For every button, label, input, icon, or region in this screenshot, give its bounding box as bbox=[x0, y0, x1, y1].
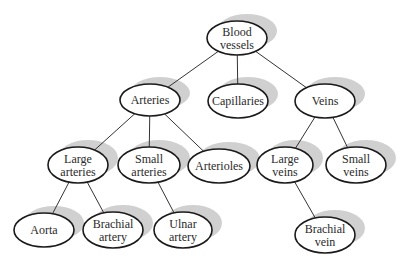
node-arterioles: Arterioles bbox=[188, 149, 250, 183]
node-brachial-artery: Brachialartery bbox=[83, 212, 143, 248]
tree-edges bbox=[53, 51, 348, 218]
brachial-vein-label-line-1: Brachial bbox=[305, 222, 346, 236]
node-blood-vessels: Bloodvessels bbox=[207, 21, 267, 55]
edge-large-arteries-to-brachial-artery bbox=[87, 182, 104, 213]
blood-vessels-label-line-2: vessels bbox=[220, 38, 254, 52]
edge-small-arteries-to-ulnar-artery bbox=[158, 182, 174, 213]
brachial-vein-label-line-2: vein bbox=[315, 235, 336, 249]
large-veins-label-line-1: Large bbox=[271, 152, 299, 166]
small-veins-label-line-2: veins bbox=[343, 165, 369, 179]
edge-large-veins-to-brachial-vein bbox=[295, 182, 316, 218]
aorta-label-line-1: Aorta bbox=[30, 223, 58, 237]
node-arteries: Arteries bbox=[120, 84, 180, 116]
brachial-artery-label-line-1: Brachial bbox=[93, 217, 134, 231]
edge-veins-to-small-veins bbox=[333, 117, 348, 147]
ulnar-artery-label-line-2: artery bbox=[169, 230, 197, 244]
blood-vessels-label-line-1: Blood bbox=[222, 25, 251, 39]
node-small-veins: Smallveins bbox=[326, 147, 386, 183]
node-capillaries: Capillaries bbox=[208, 84, 268, 118]
node-aorta: Aorta bbox=[14, 213, 74, 247]
large-arteries-label-line-2: arteries bbox=[60, 165, 96, 179]
node-ulnar-artery: Ulnarartery bbox=[154, 212, 212, 248]
small-veins-label-line-1: Small bbox=[342, 152, 371, 166]
arteries-label-line-1: Arteries bbox=[131, 93, 170, 107]
small-arteries-label-line-2: arteries bbox=[131, 165, 167, 179]
blood-vessels-tree-diagram: BloodvesselsArteriesCapillariesVeinsLarg… bbox=[0, 0, 406, 262]
large-veins-label-line-2: veins bbox=[272, 165, 298, 179]
node-brachial-vein: Brachialvein bbox=[295, 217, 355, 253]
capillaries-label-line-1: Capillaries bbox=[212, 94, 264, 108]
node-shadows bbox=[24, 14, 396, 246]
node-large-arteries: Largearteries bbox=[48, 147, 108, 183]
edge-blood-vessels-to-arteries bbox=[168, 51, 218, 87]
node-small-arteries: Smallarteries bbox=[118, 147, 180, 183]
arterioles-label-line-1: Arterioles bbox=[195, 159, 243, 173]
ulnar-artery-label-line-1: Ulnar bbox=[169, 217, 196, 231]
small-arteries-label-line-1: Small bbox=[135, 152, 164, 166]
veins-label-line-1: Veins bbox=[312, 94, 339, 108]
node-large-veins: Largeveins bbox=[257, 147, 313, 183]
large-arteries-label-line-1: Large bbox=[64, 152, 92, 166]
edge-arteries-to-large-arteries bbox=[95, 114, 135, 150]
node-veins: Veins bbox=[295, 84, 355, 118]
brachial-artery-label-line-2: artery bbox=[99, 230, 127, 244]
